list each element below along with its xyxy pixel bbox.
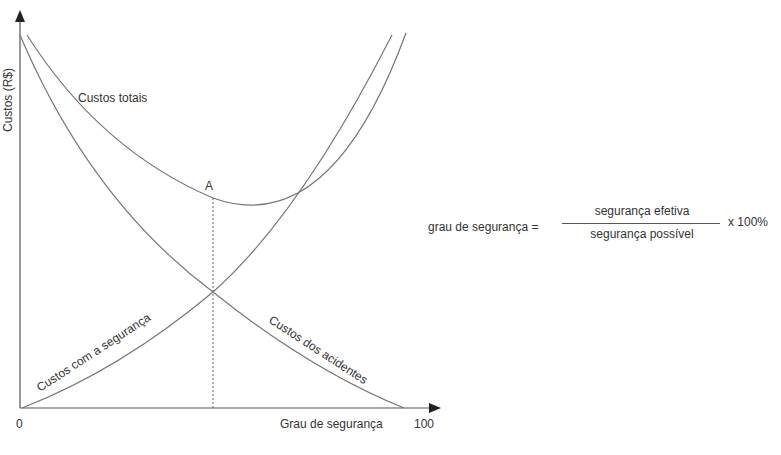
formula-numerator: segurança efetiva bbox=[562, 204, 722, 218]
label-total-costs: Custos totais bbox=[78, 91, 147, 105]
curve-total-costs bbox=[27, 33, 406, 205]
label-safety-costs: Custos com a segurança bbox=[34, 310, 153, 394]
safety-degree-formula: grau de segurança = segurança efetiva se… bbox=[428, 206, 778, 256]
fraction-bar bbox=[562, 223, 720, 224]
y-axis-label: Custos (R$) bbox=[1, 68, 15, 132]
x-axis-arrow-icon bbox=[429, 403, 441, 413]
label-accident-costs: Custos dos acidentes bbox=[266, 313, 370, 387]
formula-denominator: segurança possível bbox=[562, 227, 722, 241]
formula-left: grau de segurança = bbox=[428, 220, 538, 234]
formula-right: x 100% bbox=[728, 215, 768, 229]
label-point-a: A bbox=[205, 179, 213, 193]
x-max-label: 100 bbox=[414, 417, 434, 431]
x-axis-label: Grau de segurança bbox=[280, 417, 383, 431]
x-origin-label: 0 bbox=[16, 417, 23, 431]
y-axis-arrow-icon bbox=[15, 10, 25, 22]
